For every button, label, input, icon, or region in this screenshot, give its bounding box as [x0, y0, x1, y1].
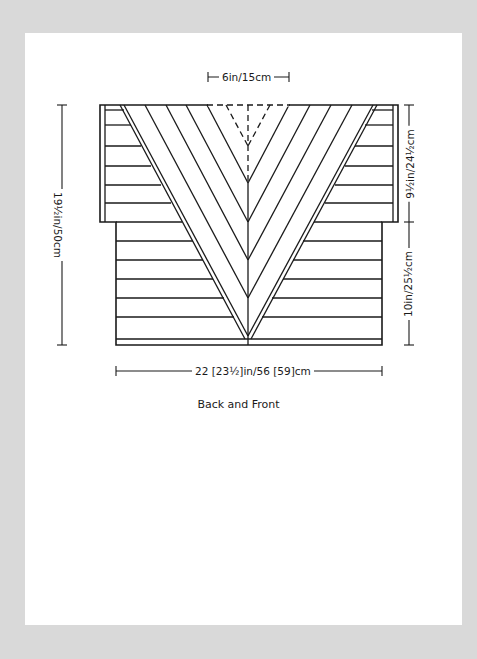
top-width-label: 6in/15cm — [219, 71, 274, 83]
diagram-caption: Back and Front — [0, 398, 477, 411]
armhole-depth-label: 9½in/24½cm — [404, 126, 416, 202]
body-length-label: 10in/25½cm — [402, 248, 414, 320]
garment-schematic — [0, 0, 477, 659]
total-length-label: 19½in/50cm — [52, 189, 64, 261]
width-label: 22 [23½]in/56 [59]cm — [192, 365, 314, 377]
